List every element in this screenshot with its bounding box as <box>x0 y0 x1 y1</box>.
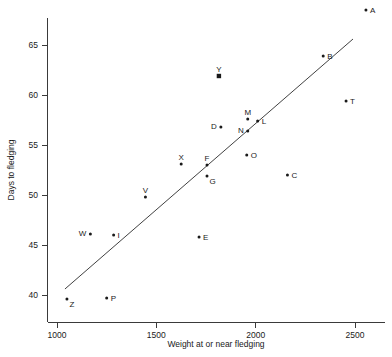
data-point-marker-dot <box>205 175 208 178</box>
data-point-label: E <box>203 233 208 242</box>
data-point-marker-dot <box>256 120 259 123</box>
data-point-label: M <box>244 108 251 117</box>
data-point-marker-dot <box>198 236 201 239</box>
data-point-label: F <box>205 154 210 163</box>
data-point-label: L <box>262 117 267 126</box>
data-point-marker-dot <box>245 154 248 157</box>
y-tick-label: 55 <box>29 140 39 150</box>
data-point-marker-dot <box>246 118 249 121</box>
data-point-label: N <box>238 126 244 135</box>
data-point: G <box>205 175 215 187</box>
y-tick-label: 65 <box>29 40 39 50</box>
data-point-marker-dot <box>205 164 208 167</box>
y-tick-label: 60 <box>29 90 39 100</box>
data-point: T <box>345 97 356 106</box>
data-point-label: D <box>211 122 217 131</box>
data-point-marker-dot <box>144 196 147 199</box>
regression-line-segment <box>65 39 353 289</box>
regression-line <box>65 39 353 289</box>
y-axis-title: Days to fledging <box>6 139 16 200</box>
data-point: N <box>238 126 249 135</box>
data-point-marker-dot <box>286 174 289 177</box>
data-point-marker-dot <box>322 55 325 58</box>
data-point-marker-dot <box>364 9 367 12</box>
data-point-marker-dot <box>246 130 249 133</box>
data-point-label: Z <box>69 300 74 309</box>
data-points: ABYTMLDNOXFCGVWIEZP <box>65 6 375 309</box>
y-tick-label: 45 <box>29 240 39 250</box>
data-point-label: I <box>118 231 120 240</box>
x-axis-ticks: 1000150020002500 <box>48 322 365 340</box>
data-point: Y <box>216 65 222 79</box>
data-point-label: G <box>209 177 215 186</box>
data-point: E <box>198 233 209 242</box>
y-axis-ticks: 404550556065 <box>29 40 48 300</box>
data-point-label: C <box>291 171 297 180</box>
data-point-marker-dot <box>89 233 92 236</box>
data-point-marker-dot <box>180 163 183 166</box>
x-axis-title: Weight at or near fledging <box>167 339 264 349</box>
data-point-marker-dot <box>219 126 222 129</box>
data-point: V <box>143 186 149 199</box>
data-point: Z <box>65 298 74 310</box>
data-point-label: Y <box>216 65 222 74</box>
plot-canvas: 404550556065 1000150020002500 Weight at … <box>0 0 392 357</box>
data-point: L <box>256 117 267 126</box>
data-point: A <box>364 6 376 15</box>
data-point-label: V <box>143 186 149 195</box>
y-tick-label: 40 <box>29 290 39 300</box>
data-point-label: P <box>111 294 116 303</box>
data-point-marker-dot <box>112 234 115 237</box>
scatter-plot-figure: 404550556065 1000150020002500 Weight at … <box>0 0 392 357</box>
data-point-label: X <box>178 153 184 162</box>
data-point: O <box>245 151 257 160</box>
x-tick-label: 2500 <box>346 330 365 340</box>
x-tick-label: 1000 <box>48 330 67 340</box>
data-point: I <box>112 231 120 240</box>
data-point: D <box>211 122 222 131</box>
data-point-label: O <box>251 151 257 160</box>
data-point-label: W <box>79 229 87 238</box>
data-point: W <box>79 229 92 238</box>
data-point-marker-dot <box>65 298 68 301</box>
data-point: P <box>105 294 116 303</box>
data-point-marker-dot <box>105 297 108 300</box>
x-tick-label: 1500 <box>147 330 166 340</box>
data-point: M <box>244 108 251 121</box>
data-point-label: B <box>327 52 332 61</box>
data-point-marker-square <box>217 74 221 78</box>
y-tick-label: 50 <box>29 190 39 200</box>
data-point-label: T <box>350 97 355 106</box>
data-point: X <box>178 153 184 166</box>
data-point-label: A <box>370 6 376 15</box>
data-point: C <box>286 171 298 180</box>
data-point-marker-dot <box>345 100 348 103</box>
data-point: B <box>322 52 333 61</box>
